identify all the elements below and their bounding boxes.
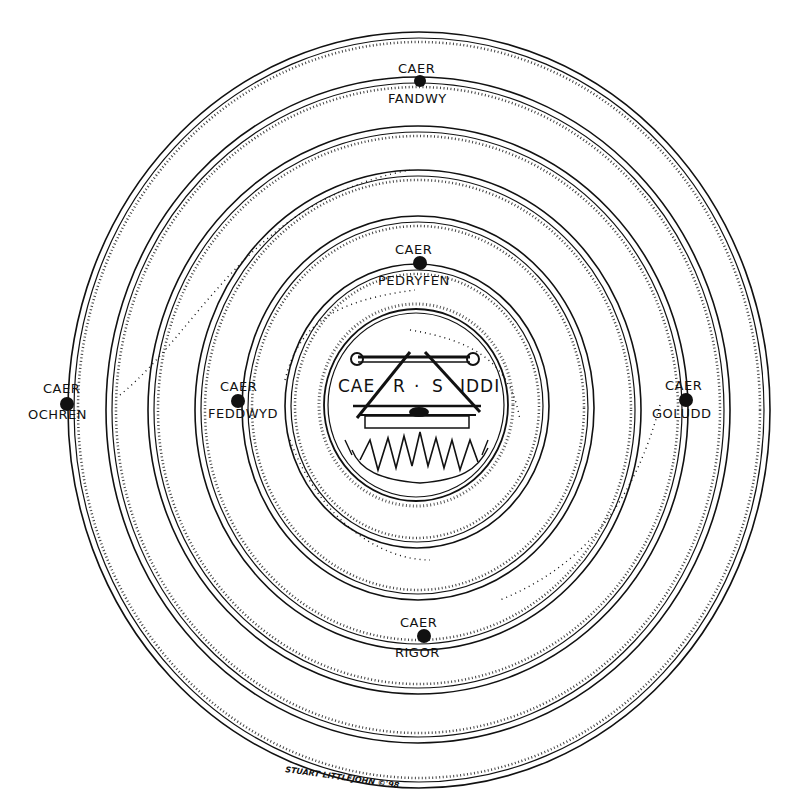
castle-label-line1: CAER — [43, 381, 80, 396]
castle-label-line2: RIGOR — [395, 645, 440, 660]
castle-label-line1: CAER — [665, 378, 702, 393]
castle-label-line2: FANDWY — [388, 91, 447, 106]
castle-marker-icon — [679, 393, 693, 407]
center-label-dot: · — [414, 376, 420, 396]
castle-marker-icon — [414, 75, 426, 87]
castle-marker-icon — [413, 256, 427, 270]
castle-feddwyd: CAER FEDDWYD — [208, 379, 278, 421]
center-label: CAE R · S IDDI — [338, 376, 500, 396]
castle-label-line1: CAER — [395, 242, 432, 257]
castle-label-line1: CAER — [220, 379, 257, 394]
castle-pedryfen: CAER PEDRYFEN — [378, 242, 450, 288]
center-label-r: R — [393, 376, 406, 396]
castle-label-line2: GOLUDD — [652, 406, 711, 421]
castle-label-line2: PEDRYFEN — [378, 273, 450, 288]
castle-label-line2: OCHREN — [28, 407, 87, 422]
castle-label-line2: FEDDWYD — [208, 406, 278, 421]
castle-ochren: CAER OCHREN — [28, 381, 87, 422]
center-label-cae: CAE — [338, 376, 375, 396]
center-label-iddi: IDDI — [460, 376, 500, 396]
castle-goludd: CAER GOLUDD — [652, 378, 711, 421]
dotted-trails — [120, 170, 660, 600]
center-label-s: S — [432, 376, 444, 396]
castle-rigor: CAER RIGOR — [395, 615, 440, 660]
otherworld-diagram: CAE R · S IDDI CAER FANDWY CAER PEDRYFEN… — [0, 0, 801, 803]
castle-label-line1: CAER — [400, 615, 437, 630]
diagram-canvas: CAE R · S IDDI CAER FANDWY CAER PEDRYFEN… — [0, 0, 801, 803]
cauldron-illustration — [345, 352, 488, 483]
castle-label-line1: CAER — [398, 61, 435, 76]
castle-marker-icon — [417, 629, 431, 643]
